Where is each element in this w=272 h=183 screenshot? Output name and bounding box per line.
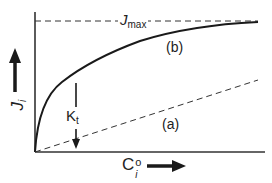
x-label-main: C [122, 155, 134, 174]
y-axis-label: Ji [8, 93, 28, 117]
diagram: Jmax (b) (a) Kt Ji Coi [0, 0, 272, 183]
x-axis-label: Coi [122, 156, 142, 174]
y-label-sub: i [17, 100, 28, 102]
kt-arrow-head [72, 139, 80, 149]
x-label-sub: i [135, 166, 137, 183]
jmax-label: Jmax [118, 12, 148, 32]
jmax-label-sub: max [128, 19, 147, 30]
jmax-label-main: J [120, 11, 128, 28]
kt-label-main: K [66, 107, 76, 124]
curve-a-label: (a) [162, 116, 179, 132]
curve-b [35, 22, 258, 152]
y-arrow-head [9, 48, 21, 63]
kt-label: Kt [66, 107, 79, 129]
curve-b-label: (b) [166, 39, 183, 55]
y-label-main: J [8, 102, 27, 111]
x-arrow-head [172, 160, 186, 172]
kt-label-sub: t [76, 115, 79, 126]
